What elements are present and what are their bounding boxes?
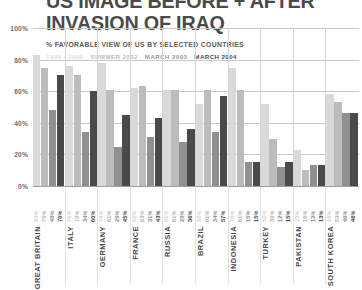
x-axis-group: 52%30%12%15%TURKEY xyxy=(261,188,294,288)
bar-value-label: 61% xyxy=(163,190,170,222)
bar-value-label: 76% xyxy=(66,190,73,222)
bar-value-label: 30% xyxy=(269,190,276,222)
bar-value-label: 13% xyxy=(318,190,325,222)
bar xyxy=(220,96,227,186)
country-label: BRAZIL xyxy=(196,226,205,256)
x-axis-group: 76%70%34%60%ITALY xyxy=(66,188,99,288)
bar-value-label: 15% xyxy=(245,190,252,222)
bar-group xyxy=(294,28,327,186)
x-axis: 83%75%48%70%GREAT BRITAIN76%70%34%60%ITA… xyxy=(33,188,359,288)
bar xyxy=(122,115,129,186)
bar-value-label: 62% xyxy=(131,190,138,222)
bar xyxy=(229,68,236,187)
bar-value-label: 70% xyxy=(74,190,81,222)
bar xyxy=(204,90,211,186)
bar xyxy=(41,68,48,187)
x-axis-group: 61%61%28%36%RUSSIA xyxy=(163,188,196,288)
bar xyxy=(294,150,301,186)
axis-separator xyxy=(130,188,131,284)
bar-value-label: 28% xyxy=(179,190,186,222)
bar-group xyxy=(131,28,164,186)
bar-value-label: 75% xyxy=(41,190,48,222)
bar xyxy=(302,170,309,186)
x-axis-group: 75%61%15%15%INDONESIA xyxy=(229,188,262,288)
bar xyxy=(326,94,333,186)
bar-value-label: 15% xyxy=(285,190,292,222)
bar xyxy=(33,55,40,186)
bar-group xyxy=(98,28,131,186)
gridline-0 xyxy=(33,186,359,187)
bar xyxy=(245,162,252,186)
bar-value-label: 43% xyxy=(155,190,162,222)
bar xyxy=(171,90,178,186)
bar-value-label: 70% xyxy=(57,190,64,222)
bar-value-label: 61% xyxy=(237,190,244,222)
y-tick-label: 80% xyxy=(14,56,28,63)
bar xyxy=(106,90,113,186)
bar-group xyxy=(261,28,294,186)
bar-value-label: 23% xyxy=(294,190,301,222)
bar xyxy=(49,110,56,186)
bar xyxy=(334,102,341,186)
country-label: GREAT BRITAIN xyxy=(33,226,42,289)
bar xyxy=(196,104,203,186)
country-label: INDONESIA xyxy=(229,226,238,272)
y-tick-label: 60% xyxy=(14,88,28,95)
x-axis-group: 78%61%25%45%GERMANY xyxy=(98,188,131,288)
bar xyxy=(155,118,162,186)
bar-value-label: 61% xyxy=(171,190,178,222)
bar-value-label: 52% xyxy=(261,190,268,222)
axis-separator xyxy=(97,188,98,284)
bar xyxy=(187,129,194,186)
bar-value-label: 15% xyxy=(253,190,260,222)
y-axis: 0%20%40%60%80%100% xyxy=(0,28,31,186)
bar xyxy=(342,113,349,186)
bar xyxy=(90,91,97,186)
axis-separator xyxy=(195,188,196,284)
axis-separator xyxy=(260,188,261,284)
axis-separator xyxy=(65,188,66,284)
country-label: GERMANY xyxy=(98,226,107,267)
bar xyxy=(277,167,284,186)
bar-group xyxy=(66,28,99,186)
title-line-1: US IMAGE BEFORE + AFTER xyxy=(46,0,337,11)
bar xyxy=(82,132,89,186)
x-axis-group: 52%61%34%57%BRAZIL xyxy=(196,188,229,288)
bar-group xyxy=(33,28,66,186)
y-tick-label: 20% xyxy=(14,151,28,158)
bar-value-label: 36% xyxy=(187,190,194,222)
country-label: PAKISTAN xyxy=(294,226,303,267)
axis-separator xyxy=(162,188,163,284)
bar xyxy=(350,113,357,186)
bar-value-label: 78% xyxy=(98,190,105,222)
bar xyxy=(285,162,292,186)
bar-groups xyxy=(33,28,359,186)
country-label: FRANCE xyxy=(131,226,140,260)
bar-value-label: 34% xyxy=(212,190,219,222)
country-label: SOUTH KOREA xyxy=(326,226,335,286)
bar xyxy=(114,147,121,187)
bar xyxy=(131,88,138,186)
bar-value-label: 75% xyxy=(229,190,236,222)
axis-separator xyxy=(228,188,229,284)
axis-separator xyxy=(293,188,294,284)
bar xyxy=(66,66,73,186)
bar-value-label: 53% xyxy=(334,190,341,222)
bar-value-label: 61% xyxy=(204,190,211,222)
bar xyxy=(261,104,268,186)
x-axis-group: 58%53%46%46%SOUTH KOREA xyxy=(326,188,359,288)
x-axis-group: 23%10%13%13%PAKISTAN xyxy=(294,188,327,288)
bar xyxy=(318,165,325,186)
axis-separator xyxy=(325,188,326,284)
bar xyxy=(139,86,146,186)
bar-value-label: 31% xyxy=(147,190,154,222)
bar-value-label: 48% xyxy=(49,190,56,222)
bar xyxy=(179,142,186,186)
y-tick-label: 0% xyxy=(18,183,28,190)
bar-value-label: 57% xyxy=(220,190,227,222)
bar-value-label: 25% xyxy=(114,190,121,222)
bar xyxy=(269,139,276,186)
x-axis-group: 62%63%31%43%FRANCE xyxy=(131,188,164,288)
bar-group xyxy=(229,28,262,186)
bar xyxy=(237,90,244,186)
